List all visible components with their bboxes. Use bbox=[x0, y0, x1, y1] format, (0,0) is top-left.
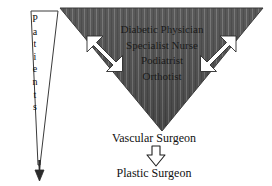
patients-letter: P bbox=[26, 13, 44, 26]
patients-letter: a bbox=[26, 26, 44, 39]
patients-funnel: P a t i e n t s bbox=[0, 0, 70, 186]
team-member-podiatrist: Podiatrist bbox=[96, 53, 228, 69]
patients-letter: n bbox=[26, 76, 44, 89]
vascular-surgeon-text: Vascular Surgeon bbox=[112, 131, 196, 145]
plastic-surgeon-text: Plastic Surgeon bbox=[117, 166, 192, 180]
patients-letter: t bbox=[26, 89, 44, 102]
team-member-diabetic-physician: Diabetic Physician bbox=[96, 22, 228, 38]
team-member-orthotist: Orthotist bbox=[96, 69, 228, 85]
patients-letter: s bbox=[26, 101, 44, 114]
diagram-figure: P a t i e n t s Diabetic Physician Speci… bbox=[0, 0, 272, 186]
patients-letter: i bbox=[26, 51, 44, 64]
patients-letter: t bbox=[26, 38, 44, 51]
down-block-arrow-icon bbox=[147, 146, 165, 166]
team-member-list: Diabetic Physician Specialist Nurse Podi… bbox=[96, 22, 228, 84]
patients-label: P a t i e n t s bbox=[26, 13, 44, 114]
patients-letter: e bbox=[26, 63, 44, 76]
plastic-surgeon-label: Plastic Surgeon bbox=[0, 166, 272, 181]
vascular-surgeon-label: Vascular Surgeon bbox=[0, 131, 272, 146]
team-member-specialist-nurse: Specialist Nurse bbox=[96, 38, 228, 54]
